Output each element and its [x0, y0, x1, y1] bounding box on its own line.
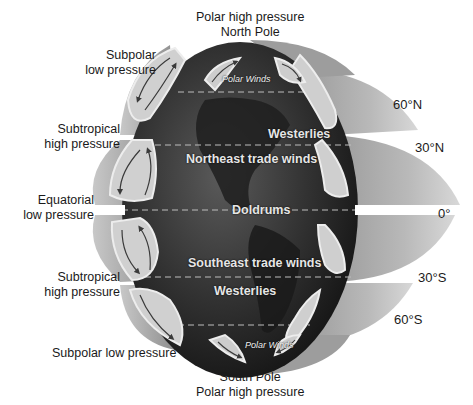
north-pole-label-line1: Polar high pressure — [196, 10, 304, 25]
westerlies-north-label: Westerlies — [268, 127, 330, 141]
equatorial-label: Equatorial low pressure — [0, 193, 94, 223]
doldrums-label: Doldrums — [232, 203, 290, 217]
subtropical-north-line2: high pressure — [10, 137, 120, 152]
subtropical-south-label: Subtropical high pressure — [10, 270, 120, 300]
subpolar-north-line1: Subpolar — [48, 48, 156, 63]
equator-gap-left — [95, 205, 125, 215]
latitude-60s: 60°S — [394, 312, 422, 327]
equatorial-line1: Equatorial — [0, 193, 94, 208]
south-pole-label-line1: South Pole — [196, 370, 304, 385]
latitude-30s: 30°S — [418, 270, 446, 285]
subpolar-south-label: Subpolar low pressure — [52, 346, 176, 361]
northeast-trade-winds-label: Northeast trade winds — [186, 152, 317, 166]
subpolar-north-label: Subpolar low pressure — [48, 48, 156, 78]
south-pole-label: South Pole Polar high pressure — [196, 370, 304, 400]
westerlies-south-label: Westerlies — [214, 284, 276, 298]
subtropical-south-line1: Subtropical — [10, 270, 120, 285]
subtropical-south-line2: high pressure — [10, 285, 120, 300]
southeast-trade-winds-label: Southeast trade winds — [188, 256, 321, 270]
north-pole-label-line2: North Pole — [196, 25, 304, 40]
polar-winds-south-label: Polar Winds — [245, 340, 293, 350]
latitude-0: 0° — [438, 206, 450, 221]
subtropical-north-label: Subtropical high pressure — [10, 122, 120, 152]
north-pole-label: Polar high pressure North Pole — [196, 10, 304, 40]
atmospheric-circulation-diagram: Polar high pressure North Pole Subpolar … — [0, 0, 473, 405]
equatorial-line2: low pressure — [0, 208, 94, 223]
subtropical-north-line1: Subtropical — [10, 122, 120, 137]
subpolar-north-line2: low pressure — [48, 63, 156, 78]
latitude-60n: 60°N — [393, 97, 422, 112]
latitude-30n: 30°N — [415, 140, 444, 155]
polar-winds-north-label: Polar Winds — [222, 74, 270, 84]
south-pole-label-line2: Polar high pressure — [196, 385, 304, 400]
